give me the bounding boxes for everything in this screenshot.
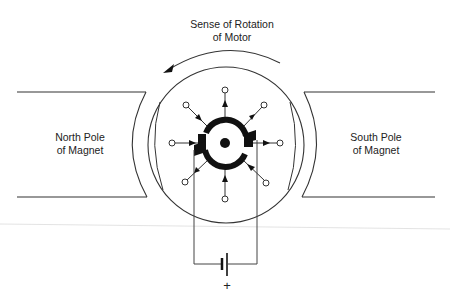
rotation-arrow-icon <box>163 51 280 73</box>
battery-polarity-label: + <box>220 279 234 292</box>
commutator <box>194 120 256 167</box>
south-pole-label: South Pole of Magnet <box>336 131 416 157</box>
north-pole-label: North Pole of Magnet <box>40 131 120 157</box>
north-pole-label-line2: of Magnet <box>40 144 120 157</box>
rotation-label: Sense of Rotation of Motor <box>172 18 292 44</box>
north-pole-face-arc <box>155 102 163 190</box>
faint-divider-line <box>0 224 450 229</box>
north-pole-label-line1: North Pole <box>40 131 120 144</box>
south-pole-face-arc <box>288 102 296 190</box>
battery-icon <box>222 253 227 276</box>
rotation-label-line1: Sense of Rotation <box>172 18 292 31</box>
south-pole-label-line2: of Magnet <box>336 144 416 157</box>
axle-dot <box>220 138 230 148</box>
south-pole-label-line1: South Pole <box>336 131 416 144</box>
rotation-label-line2: of Motor <box>172 31 292 44</box>
